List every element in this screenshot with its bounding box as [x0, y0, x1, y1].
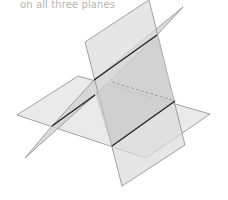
three-planes-diagram: [0, 0, 228, 200]
